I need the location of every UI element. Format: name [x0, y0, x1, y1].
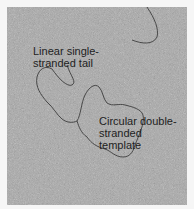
label-line: stranded template: [99, 127, 187, 151]
label-linear-single-stranded-tail: Linear single- stranded tail: [33, 45, 99, 69]
micrograph-panel: Linear single- stranded tail Circular do…: [7, 7, 187, 205]
label-line: stranded tail: [33, 57, 99, 69]
label-circular-double-stranded-template: Circular double- stranded template: [99, 115, 187, 151]
label-line: Circular double-: [99, 115, 187, 127]
micrograph-noise-texture: [7, 7, 187, 205]
label-line: Linear single-: [33, 45, 99, 57]
